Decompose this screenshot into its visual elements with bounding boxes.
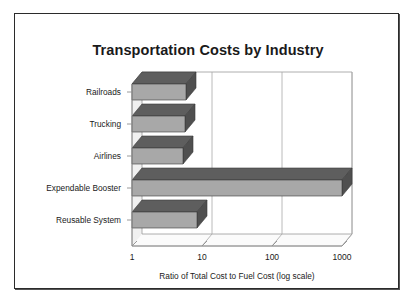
screenshot-root: Transportation Costs by Industry (0, 0, 414, 305)
bar-chart-figure: Transportation Costs by Industry (15, 14, 400, 290)
bar-airlines[interactable] (132, 136, 193, 164)
bar-railroads[interactable] (132, 72, 196, 100)
bar-trucking[interactable] (132, 104, 195, 132)
chart-frame: Transportation Costs by Industry (14, 13, 399, 289)
bar-reusable-system[interactable] (132, 200, 207, 228)
bar-front-face (132, 148, 183, 164)
category-label-expendable-booster: Expendable Booster (46, 183, 121, 193)
bar-top-face (132, 104, 195, 116)
tick-label-10: 10 (197, 252, 207, 262)
category-axis (127, 84, 132, 246)
chart-title: Transportation Costs by Industry (92, 42, 323, 58)
category-label-trucking: Trucking (89, 119, 121, 129)
category-label-reusable-system: Reusable System (56, 215, 121, 225)
bar-top-face (132, 168, 352, 180)
bar-top-face (132, 72, 196, 84)
tick-label-100: 100 (265, 252, 279, 262)
category-axis-labels: Railroads Trucking Airlines Expendable B… (46, 87, 121, 225)
category-label-airlines: Airlines (94, 151, 121, 161)
x-axis-title: Ratio of Total Cost to Fuel Cost (log sc… (159, 271, 314, 281)
bar-top-face (132, 200, 207, 212)
bar-front-face (132, 212, 197, 228)
tick-label-1000: 1000 (333, 252, 352, 262)
value-axis-tick-labels: 1 10 100 1000 (130, 252, 352, 262)
bar-front-face (132, 180, 342, 196)
bar-top-face (132, 136, 193, 148)
floor-panel (132, 234, 352, 246)
category-label-railroads: Railroads (86, 87, 121, 97)
bar-front-face (132, 116, 185, 132)
tick-label-1: 1 (130, 252, 135, 262)
bar-expendable-booster[interactable] (132, 168, 352, 196)
bar-front-face (132, 84, 186, 100)
